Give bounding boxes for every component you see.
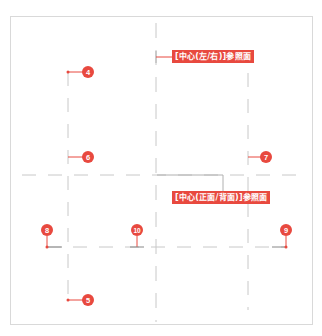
marker-10-number: 10 [133, 227, 141, 234]
marker-5-number: 5 [86, 296, 90, 305]
marker-9-number: 9 [284, 226, 288, 235]
marker-8-number: 8 [45, 226, 49, 235]
label-center-front-back-plane: [中心(正面/背面)]参照面 [172, 191, 270, 204]
diagram-canvas: 4 6 7 8 10 [0, 0, 322, 336]
label-center-left-right-plane: [中心(左/右)]参照面 [172, 50, 254, 63]
diagram-frame [11, 17, 313, 325]
reference-plane-diagram: 4 6 7 8 10 [0, 0, 322, 336]
marker-7-number: 7 [264, 153, 268, 162]
marker-6-number: 6 [86, 153, 90, 162]
